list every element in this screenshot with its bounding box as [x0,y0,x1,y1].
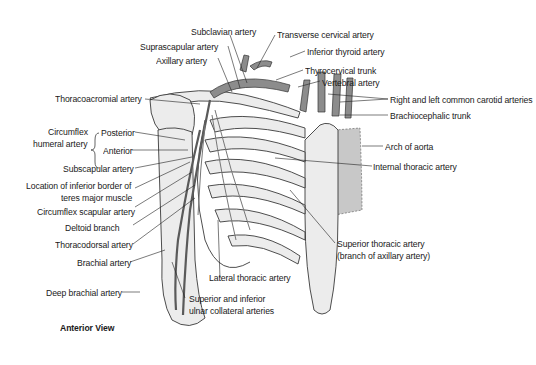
label-ulnar-collateral-line1: Superior and inferior [189,293,265,304]
anatomy-diagram: Subclavian artery Transverse cervical ar… [0,0,536,365]
label-suprascapular-artery: Suprascapular artery [140,41,218,52]
label-inferior-border-line2: teres major muscle [61,192,132,203]
label-deep-brachial-artery: Deep brachial artery [46,287,122,298]
label-vertebral-artery: Vertebral artery [322,77,380,88]
label-axillary-artery: Axillary artery [156,55,207,66]
label-common-carotid-arteries: Right and left common carotid arteries [390,94,532,105]
label-thyrocervical-trunk: Thyrocervical trunk [305,65,376,76]
label-inferior-thyroid-artery: Inferior thyroid artery [307,46,385,57]
label-subclavian-artery: Subclavian artery [191,26,256,37]
label-brachial-artery: Brachial artery [77,257,131,268]
label-anterior: Anterior [103,145,133,156]
label-posterior: Posterior [101,127,135,138]
label-thoracoacromial-artery: Thoracoacromial artery [55,93,142,104]
label-inferior-border-line1: Location of inferior border of [26,180,131,191]
label-thoracodorsal-artery: Thoracodorsal artery [55,239,133,250]
label-circumflex-scapular-artery: Circumflex scapular artery [37,206,135,217]
label-brachiocephalic-trunk: Brachiocephalic trunk [390,110,471,121]
label-subscapular-artery: Subscapular artery [63,163,134,174]
label-circumflex-humeral-line2: humeral artery [33,138,87,149]
label-arch-of-aorta: Arch of aorta [385,141,433,152]
label-transverse-cervical-artery: Transverse cervical artery [277,29,374,40]
label-internal-thoracic-artery: Internal thoracic artery [373,161,457,172]
view-label: Anterior View [60,322,114,333]
label-deltoid-branch: Deltoid branch [65,222,119,233]
label-superior-thoracic-line1: Superior thoracic artery [337,238,425,249]
label-superior-thoracic-line2: (branch of axillary artery) [337,250,430,261]
label-circumflex-humeral-line1: Circumflex [48,126,88,137]
label-lateral-thoracic-artery: Lateral thoracic artery [209,272,290,283]
label-ulnar-collateral-line2: ulnar collateral arteries [189,305,274,316]
